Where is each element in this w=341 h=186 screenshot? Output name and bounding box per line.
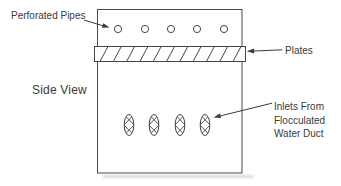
- inlets-label-line-2: Flocculated: [274, 114, 325, 128]
- side-view-label: Side View: [32, 83, 87, 97]
- inlets-label: Inlets From Flocculated Water Duct: [274, 100, 325, 141]
- inlets-label-line-3: Water Duct: [274, 127, 325, 141]
- perforated-pipes-arrow: [84, 20, 110, 28]
- plates-label: Plates: [285, 45, 313, 56]
- perforated-pipe-hole: [193, 25, 200, 32]
- inlets-arrow: [214, 103, 273, 118]
- perforated-pipes-label: Perforated Pipes: [11, 10, 86, 21]
- perforated-pipe-holes: [114, 25, 227, 32]
- inlet-duct: [175, 115, 185, 136]
- perforated-pipe-hole: [114, 25, 121, 32]
- perforated-pipe-hole: [220, 25, 227, 32]
- plates-band: [95, 47, 246, 62]
- inlet-ducts: [124, 115, 210, 136]
- inlet-duct: [200, 115, 210, 136]
- plates-arrow: [247, 49, 283, 54]
- perforated-pipe-hole: [141, 25, 148, 32]
- scan-shadow: [103, 175, 253, 178]
- perforated-pipe-hole: [167, 25, 174, 32]
- inlet-duct: [149, 115, 159, 136]
- side-view-diagram: Perforated Pipes Side View Plates Inlets…: [0, 0, 341, 186]
- inlet-duct: [124, 115, 134, 136]
- tank-outline: [98, 10, 243, 174]
- inlets-label-line-1: Inlets From: [274, 100, 325, 114]
